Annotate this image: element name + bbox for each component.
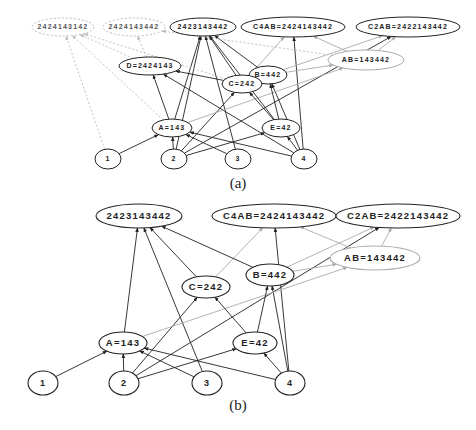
edge-n4-to-e [287,136,297,150]
node-d: D=2424143 [119,57,181,75]
node-layer: 242414314224241434422423143442C4AB=24241… [32,17,460,169]
node-label: C=242 [189,281,223,292]
edge-n4-to-b [272,84,300,150]
node-label: 1 [105,155,110,162]
node-label: A=143 [159,124,186,131]
node-c2ab: C2AB=2422143442 [336,204,460,228]
edge-c-to-s3 [150,228,197,277]
node-c: C=242 [222,75,262,93]
edge-n4-to-c4ab [275,228,289,371]
node-n1: 1 [28,371,58,395]
node-s3: 2423143442 [170,18,236,36]
figure: 242414314224241434422423143442C4AB=24241… [0,0,476,430]
edge-n1-to-a [56,351,107,377]
node-n3: 3 [225,149,251,169]
node-label: A=143 [106,337,140,348]
node-label: C4AB=2424143442 [253,23,333,30]
edge-ab-to-c2ab [382,228,392,246]
edge-b-to-ab [293,264,337,271]
edge-b-to-s3 [214,35,257,67]
edge-ab-to-c4ab [300,227,351,248]
node-n4: 4 [275,371,305,395]
node-label: AB=143442 [344,252,406,263]
edge-e-to-b [257,286,267,332]
edge-n4-to-e [264,353,282,373]
node-s2: 2424143442 [103,18,165,36]
edge-a-to-s3 [124,228,137,332]
edge-n4-to-b [272,286,288,371]
node-e: E=42 [233,332,277,354]
edge-n3-to-a [186,134,227,153]
node-label: C2AB=2422143442 [368,23,448,30]
node-c2ab: C2AB=2422143442 [356,17,460,37]
edge-n1-to-a [119,135,158,154]
node-a: A=143 [99,332,147,354]
node-label: 4 [287,378,293,388]
node-label: C2AB=2422143442 [347,210,449,221]
edge-b-to-s3 [162,226,253,267]
node-e: E=42 [262,119,300,137]
node-s3: 2423143442 [96,204,182,228]
node-layer: 2423143442C4AB=2424143442C2AB=2422143442… [28,204,460,395]
node-label: 3 [235,155,240,162]
edge-a-to-d [153,75,169,119]
node-label: 2423143442 [178,23,229,30]
caption-a: (a) [230,175,247,192]
node-label: E=42 [241,337,268,348]
node-n1: 1 [95,149,121,169]
graph-figure: 242414314224241434422423143442C4AB=24241… [0,0,476,430]
node-label: 2423143442 [107,210,172,221]
node-label: C=242 [229,80,256,87]
node-label: 2424143442 [109,23,160,30]
edge-n1-to-s1 [66,36,105,149]
node-s1: 2424143142 [32,18,94,36]
node-c4ab: C4AB=2424143442 [212,204,336,228]
node-c: C=242 [182,276,230,298]
caption-b: (b) [229,397,247,414]
edge-n2-to-e [186,133,265,156]
node-label: 2 [171,155,176,162]
node-b: B=442 [246,264,294,286]
node-label: D=2424143 [126,62,173,69]
node-label: 1 [40,378,46,388]
edge-n2-to-a [173,137,174,149]
edge-a-to-s1 [72,36,163,120]
node-label: AB=143442 [342,56,390,63]
node-a: A=143 [152,119,192,137]
edge-layer [66,31,396,156]
edge-a-to-s3 [175,36,201,119]
node-label: 2 [121,378,127,388]
node-c4ab: C4AB=2424143442 [241,17,345,37]
node-label: 2424143142 [38,23,89,30]
node-n2: 2 [109,371,139,395]
edge-n2-to-e [138,349,236,379]
node-n4: 4 [291,149,317,169]
node-n3: 3 [192,371,222,395]
edge-layer [56,226,392,379]
node-label: E=42 [270,124,291,131]
diagram-a: 242414314224241434422423143442C4AB=24241… [32,17,460,192]
node-label: 3 [204,378,210,388]
node-n2: 2 [161,149,187,169]
edge-d-to-s2 [138,36,147,57]
node-ab: AB=143442 [330,246,420,270]
edge-ab-to-c4ab [313,36,347,51]
node-label: B=442 [255,71,282,78]
node-label: C4AB=2424143442 [223,210,325,221]
node-ab: AB=143442 [328,50,404,70]
diagram-b: 2423143442C4AB=2424143442C2AB=2422143442… [28,204,460,414]
node-label: B=442 [253,269,287,280]
node-label: 4 [301,155,306,162]
edge-a-to-ab [142,267,347,336]
